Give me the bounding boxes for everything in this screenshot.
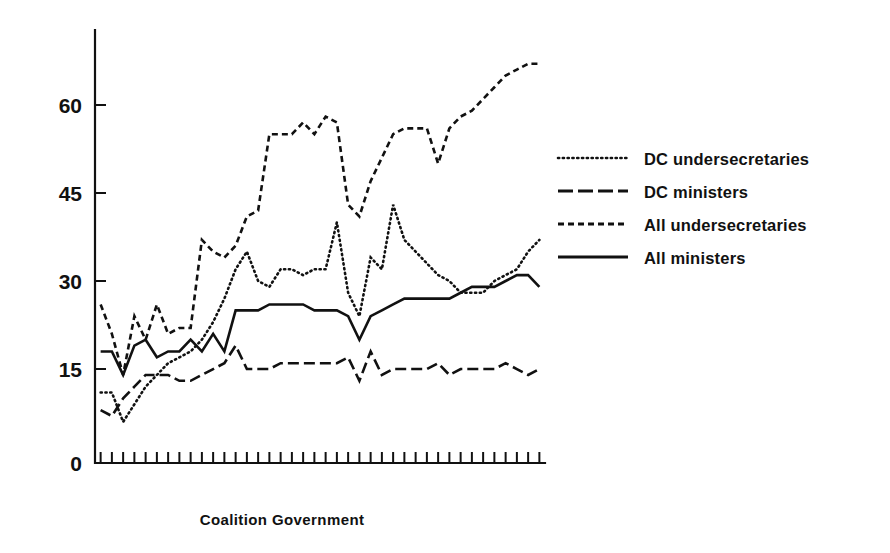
legend-label-dc-undersecretaries: DC undersecretaries xyxy=(644,150,809,168)
x-axis-title: Coalition Government xyxy=(200,511,365,528)
y-tick-label-60: 60 xyxy=(59,94,82,117)
y-tick-label-15: 15 xyxy=(59,358,83,381)
y-tick-label-0: 0 xyxy=(70,452,82,475)
line-chart-figure: 60 45 30 15 0 Coalition Government DC un… xyxy=(0,0,890,553)
y-tick-label-30: 30 xyxy=(59,270,82,293)
legend-label-dc-ministers: DC ministers xyxy=(644,183,748,201)
legend-label-all-undersecretaries: All undersecretaries xyxy=(644,216,807,234)
y-tick-label-45: 45 xyxy=(59,182,83,205)
legend-label-all-ministers: All ministers xyxy=(644,249,746,267)
chart-background xyxy=(0,0,890,553)
